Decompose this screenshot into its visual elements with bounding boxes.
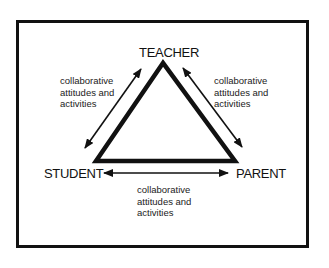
node-teacher: TEACHER [139,45,199,60]
triangle-diagram [0,0,329,268]
label-teacher-student: collaborative attitudes and activities [60,75,114,110]
label-teacher-parent: collaborative attitudes and activities [214,75,268,110]
node-parent: PARENT [236,166,286,181]
node-student: STUDENT [44,166,103,181]
label-student-parent: collaborative attitudes and activities [137,184,191,219]
